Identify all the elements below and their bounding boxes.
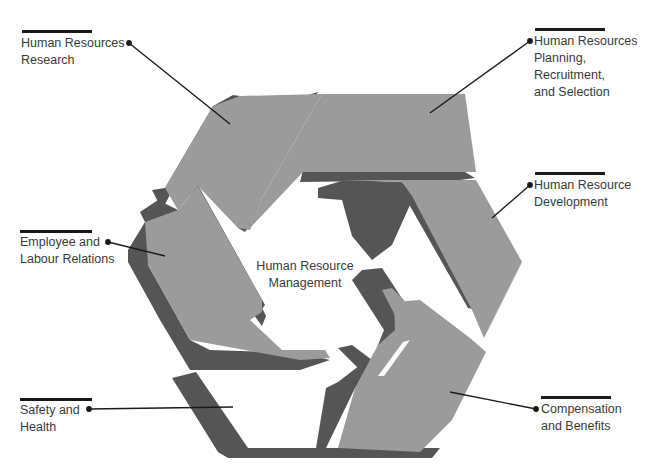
- rule-hr-planning: [535, 28, 605, 31]
- label-hr-planning: Human Resources Planning, Recruitment, a…: [534, 33, 638, 101]
- rule-compensation: [541, 396, 611, 399]
- center-title: Human Resource Management: [240, 258, 370, 292]
- rule-hr-research: [22, 30, 92, 33]
- rule-employee-relations: [20, 230, 92, 233]
- rule-hr-development: [535, 172, 605, 175]
- label-hr-development: Human Resource Development: [534, 177, 631, 211]
- label-compensation: Compensation and Benefits: [541, 401, 622, 435]
- label-hr-research: Human Resources Research: [21, 35, 125, 69]
- label-safety-health: Safety and Health: [20, 402, 80, 436]
- rule-safety-health: [20, 398, 92, 401]
- label-employee-relations: Employee and Labour Relations: [20, 234, 115, 268]
